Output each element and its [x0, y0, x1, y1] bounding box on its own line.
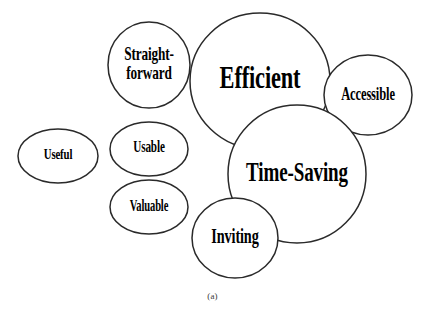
bubble-label-usable: Usable	[133, 139, 165, 156]
bubble-diagram: UsefulStraight-forwardEfficientAccessibl…	[0, 0, 425, 328]
bubble-label-valuable: Valuable	[130, 197, 169, 215]
bubble-label-time-saving: Time-Saving	[246, 156, 348, 186]
bubble-label-inviting: Inviting	[211, 224, 258, 247]
figure-canvas: UsefulStraight-forwardEfficientAccessibl…	[0, 0, 425, 328]
figure-caption: (a)	[0, 291, 425, 301]
bubble-label-useful: Useful	[44, 146, 73, 163]
bubble-label-straightforward: Straight-forward	[124, 42, 174, 83]
bubble-label-accessible: Accessible	[341, 83, 395, 103]
bubble-label-efficient: Efficient	[220, 59, 302, 95]
